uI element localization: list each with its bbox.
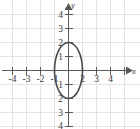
y-tick-labels: 4 3 2 1 1 2 3 4 — [58, 10, 63, 129]
x-tick-label: -4 — [9, 74, 17, 84]
x-tick-label: 2 — [80, 74, 85, 84]
y-axis — [65, 3, 73, 127]
y-tick-label: 2 — [58, 94, 63, 104]
x-tick-label: 3 — [94, 74, 99, 84]
graph-figure: -4 -3 -2 -1 2 3 4 4 3 2 1 1 2 3 4 x y — [0, 0, 140, 129]
y-tick-label: 1 — [58, 80, 63, 90]
x-axis-label: x — [131, 66, 136, 76]
y-tick-label: 3 — [58, 108, 63, 118]
y-axis-label: y — [70, 0, 75, 10]
x-tick-label: -2 — [37, 74, 45, 84]
y-tick-label: 3 — [58, 24, 63, 34]
coordinate-plane: -4 -3 -2 -1 2 3 4 4 3 2 1 1 2 3 4 x y — [0, 0, 140, 129]
y-tick-label: 1 — [58, 52, 63, 62]
y-tick-label: 2 — [58, 38, 63, 48]
x-tick-label: -3 — [23, 74, 31, 84]
x-tick-label: 4 — [108, 74, 113, 84]
y-tick-label: 4 — [58, 121, 63, 129]
grid-lines — [0, 0, 140, 129]
y-tick-label: 4 — [58, 10, 63, 20]
